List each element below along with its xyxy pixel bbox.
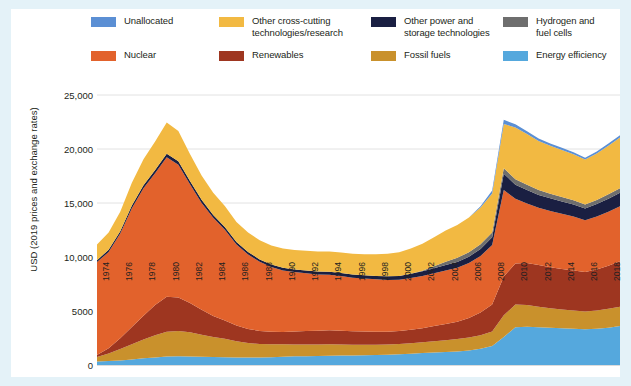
x-axis-tick-label: 2016 <box>589 262 599 281</box>
y-axis-tick-label: 10,000 <box>35 252 93 263</box>
x-axis-tick-label: 1998 <box>380 262 390 281</box>
legend-item-label: Hydrogen and fuel cells <box>536 15 594 38</box>
x-axis-tick-label: 1994 <box>333 262 343 281</box>
legend-swatch-icon <box>503 17 528 27</box>
legend-item: Other cross-cutting technologies/researc… <box>219 15 343 38</box>
chart-legend: UnallocatedOther cross-cutting technolog… <box>11 15 620 77</box>
x-axis-tick-label: 1978 <box>147 262 157 281</box>
legend-item: Renewables <box>219 49 303 61</box>
x-axis-tick-label: 2012 <box>543 262 553 281</box>
y-axis-tick-label: 20,000 <box>35 144 93 155</box>
legend-swatch-icon <box>91 51 116 61</box>
legend-item: Other power and storage technologies <box>371 15 490 38</box>
x-axis-tick-label: 1982 <box>194 262 204 281</box>
legend-item-label: Unallocated <box>124 15 173 27</box>
x-axis-tick-label: 2018 <box>612 262 622 281</box>
legend-item: Energy efficiency <box>503 49 606 61</box>
x-axis-tick-label: 1992 <box>310 262 320 281</box>
y-axis-tick-label: 0 <box>35 360 93 371</box>
y-axis-ticks: 0500010,00015,00020,00025,000 <box>35 79 93 377</box>
legend-swatch-icon <box>371 51 396 61</box>
legend-swatch-icon <box>219 17 244 27</box>
x-axis-ticks: 1974197619781980198219841986198819901992… <box>97 279 620 339</box>
legend-item: Hydrogen and fuel cells <box>503 15 594 38</box>
x-axis-tick-label: 2014 <box>566 262 576 281</box>
legend-item-label: Nuclear <box>124 49 156 61</box>
x-axis-tick-label: 2004 <box>450 262 460 281</box>
y-axis-tick-label: 15,000 <box>35 198 93 209</box>
x-axis-tick-label: 1986 <box>240 262 250 281</box>
x-axis-tick-label: 2010 <box>519 262 529 281</box>
legend-swatch-icon <box>219 51 244 61</box>
legend-item-label: Energy efficiency <box>536 49 606 61</box>
x-axis-tick-label: 1974 <box>101 262 111 281</box>
legend-swatch-icon <box>91 17 116 27</box>
y-axis-tick-label: 5000 <box>35 306 93 317</box>
legend-item: Unallocated <box>91 15 173 27</box>
x-axis-tick-label: 1976 <box>124 262 134 281</box>
x-axis-tick-label: 2000 <box>403 262 413 281</box>
x-axis-tick-label: 1990 <box>287 262 297 281</box>
chart-card: UnallocatedOther cross-cutting technolog… <box>11 9 620 377</box>
legend-item-label: Other power and storage technologies <box>404 15 490 38</box>
x-axis-tick-label: 2002 <box>426 262 436 281</box>
x-axis-tick-label: 1988 <box>264 262 274 281</box>
legend-item: Fossil fuels <box>371 49 450 61</box>
x-axis-tick-label: 1996 <box>357 262 367 281</box>
legend-swatch-icon <box>371 17 396 27</box>
legend-item-label: Fossil fuels <box>404 49 450 61</box>
y-axis-tick-label: 25,000 <box>35 90 93 101</box>
x-axis-tick-label: 2008 <box>496 262 506 281</box>
x-axis-tick-label: 1984 <box>217 262 227 281</box>
legend-item-label: Renewables <box>252 49 303 61</box>
x-axis-tick-label: 1980 <box>171 262 181 281</box>
x-axis-tick-label: 2006 <box>473 262 483 281</box>
legend-swatch-icon <box>503 51 528 61</box>
legend-item: Nuclear <box>91 49 156 61</box>
legend-item-label: Other cross-cutting technologies/researc… <box>252 15 343 38</box>
